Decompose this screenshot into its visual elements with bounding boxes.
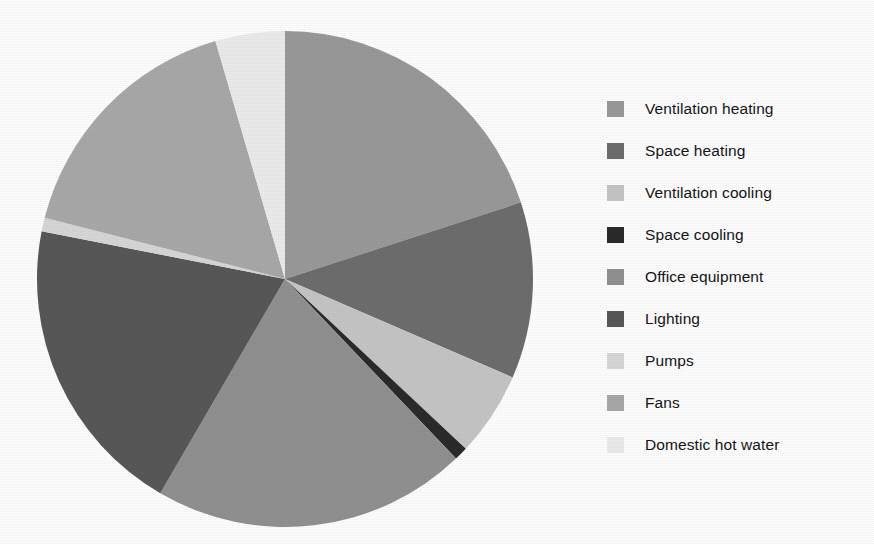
legend-item-label: Space heating: [645, 143, 745, 159]
legend-item[interactable]: Space cooling: [607, 214, 869, 256]
legend-item[interactable]: Pumps: [607, 340, 869, 382]
pie-chart-plot-area: Ventilation heating: 20%Space heating: 1…: [36, 30, 534, 528]
legend-item-label: Lighting: [645, 311, 700, 327]
legend-swatch-icon: [607, 395, 624, 411]
legend-item-label: Office equipment: [645, 269, 764, 285]
pie-chart-figure: Ventilation heating: 20%Space heating: 1…: [0, 0, 874, 544]
legend-item-label: Ventilation cooling: [645, 185, 772, 201]
legend-swatch-icon: [607, 437, 624, 453]
legend-item[interactable]: Office equipment: [607, 256, 869, 298]
legend-item-label: Space cooling: [645, 227, 744, 243]
legend-swatch-icon: [607, 353, 624, 369]
legend-item-label: Ventilation heating: [645, 101, 774, 117]
legend-item-label: Pumps: [645, 353, 694, 369]
pie-chart-svg: Ventilation heating: 20%Space heating: 1…: [36, 30, 534, 528]
legend-item[interactable]: Lighting: [607, 298, 869, 340]
chart-legend: Ventilation heatingSpace heatingVentilat…: [607, 88, 869, 466]
legend-swatch-icon: [607, 185, 624, 201]
legend-item[interactable]: Space heating: [607, 130, 869, 172]
legend-swatch-icon: [607, 143, 624, 159]
legend-item-label: Fans: [645, 395, 680, 411]
legend-swatch-icon: [607, 311, 624, 327]
pie-slice-group: Ventilation heating: 20%Space heating: 1…: [37, 31, 533, 527]
legend-item-label: Domestic hot water: [645, 437, 779, 453]
legend-swatch-icon: [607, 269, 624, 285]
legend-swatch-icon: [607, 101, 624, 117]
legend-item[interactable]: Domestic hot water: [607, 424, 869, 466]
legend-item[interactable]: Ventilation cooling: [607, 172, 869, 214]
legend-swatch-icon: [607, 227, 624, 243]
legend-item[interactable]: Fans: [607, 382, 869, 424]
legend-item[interactable]: Ventilation heating: [607, 88, 869, 130]
